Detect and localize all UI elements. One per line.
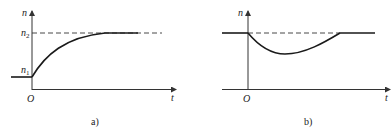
rise-curve bbox=[32, 33, 138, 77]
y-axis-label-a: n bbox=[22, 7, 27, 18]
caption-b: b) bbox=[304, 116, 312, 128]
y-axis-label-b: n bbox=[238, 7, 243, 18]
n1-label: n1 bbox=[21, 64, 30, 77]
panel-a: n n2 n1 O t a) bbox=[11, 7, 176, 128]
caption-a: a) bbox=[91, 116, 99, 128]
origin-label-a: O bbox=[27, 93, 34, 104]
x-axis-label-b: t bbox=[385, 92, 388, 103]
n2-label: n2 bbox=[21, 27, 30, 40]
figure-canvas: n n2 n1 O t a) n O t b) bbox=[0, 0, 391, 134]
panel-b: n O t b) bbox=[222, 7, 390, 128]
x-axis-label-a: t bbox=[171, 92, 174, 103]
origin-label-b: O bbox=[243, 93, 250, 104]
dip-curve bbox=[248, 33, 375, 54]
